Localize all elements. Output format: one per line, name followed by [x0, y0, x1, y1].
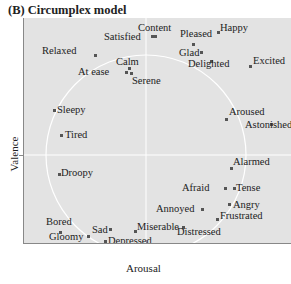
emotion-dot — [200, 51, 203, 54]
emotion-dot — [225, 118, 228, 121]
emotion-label: Calm — [116, 56, 139, 67]
emotion-label: Annoyed — [156, 203, 195, 214]
emotion-dot — [87, 235, 90, 238]
emotion-label: Glad — [179, 47, 199, 58]
emotion-dot — [228, 203, 231, 206]
emotion-dot — [53, 109, 56, 112]
x-axis-tick — [146, 240, 147, 244]
emotion-label: Droopy — [61, 167, 93, 178]
emotion-label: Angry — [233, 199, 260, 210]
emotion-label: Gloomy — [49, 231, 83, 242]
emotion-label: Delighted — [188, 58, 229, 69]
emotion-label: Aroused — [229, 106, 265, 117]
emotion-label: Excited — [253, 55, 285, 66]
y-axis-label: Valence — [8, 134, 20, 174]
emotion-label: Sad — [92, 224, 108, 235]
emotion-dot — [128, 67, 131, 70]
emotion-dot — [104, 240, 107, 243]
emotion-dot — [216, 218, 219, 221]
emotion-label: Relaxed — [42, 45, 76, 56]
emotion-label: Pleased — [180, 28, 212, 39]
emotion-label: Distressed — [177, 226, 221, 237]
emotion-dot — [230, 167, 233, 170]
emotion-label: Tired — [65, 129, 87, 140]
circumplex-plot: ContentSatisfiedRelaxedCalmAt easeSerene… — [23, 18, 291, 244]
emotion-dot — [151, 35, 154, 38]
emotion-dot — [94, 54, 97, 57]
emotion-label: Tense — [236, 182, 260, 193]
emotion-dot — [249, 65, 252, 68]
emotion-dot — [201, 208, 204, 211]
emotion-label: Bored — [46, 216, 72, 227]
figure-title: (B) Circumplex model — [8, 3, 127, 18]
emotion-dot — [60, 134, 63, 137]
emotion-label: Happy — [220, 22, 248, 33]
emotion-label: Afraid — [182, 182, 209, 193]
emotion-label: Miserable — [137, 221, 179, 232]
emotion-label: Satisfied — [104, 31, 141, 42]
emotion-label: Alarmed — [233, 156, 270, 167]
emotion-label: Content — [138, 22, 171, 33]
emotion-label: At ease — [78, 66, 109, 77]
emotion-dot — [154, 35, 157, 38]
emotion-dot — [224, 187, 227, 190]
emotion-label: Astonished — [245, 119, 291, 130]
emotion-dot — [125, 71, 128, 74]
emotion-label: Frustrated — [220, 210, 263, 221]
x-axis-label: Arousal — [126, 262, 161, 274]
emotion-dot — [109, 228, 112, 231]
emotion-dot — [192, 43, 195, 46]
emotion-label: Sleepy — [57, 104, 86, 115]
emotion-label: Serene — [132, 75, 161, 86]
